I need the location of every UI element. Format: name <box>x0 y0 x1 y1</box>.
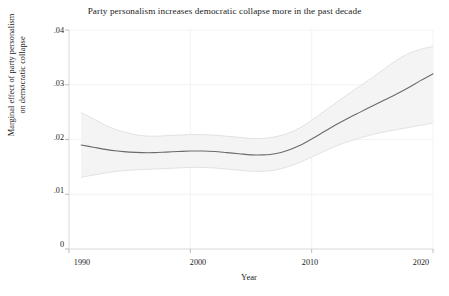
chart-figure: Party personalism increases democratic c… <box>0 0 449 296</box>
confidence-band <box>81 46 433 177</box>
x-axis-ticks <box>69 249 433 253</box>
y-axis-ticks <box>65 30 69 249</box>
plot-area <box>0 0 449 296</box>
